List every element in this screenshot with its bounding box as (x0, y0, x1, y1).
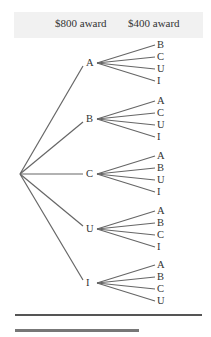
second-level-node: I (157, 75, 161, 86)
second-level-node: A (157, 150, 165, 161)
second-level-node: B (157, 39, 164, 50)
second-level-node: U (157, 295, 165, 306)
first-level-node: A (86, 57, 94, 68)
second-level-node: B (157, 271, 164, 282)
tree-branch (20, 122, 83, 174)
tree-branch (20, 174, 83, 226)
first-level-node: I (86, 277, 90, 288)
second-level-node: C (157, 229, 164, 240)
second-level-node: U (157, 63, 165, 74)
second-level-node: I (157, 241, 161, 252)
second-level-node: I (157, 131, 161, 142)
second-level-node: B (157, 217, 164, 228)
tree-branch (20, 66, 83, 174)
second-level-node: C (157, 107, 164, 118)
second-level-node: C (157, 51, 164, 62)
first-level-node: U (86, 223, 94, 234)
first-level-node: B (86, 113, 93, 124)
first-level-node: C (86, 168, 93, 179)
second-level-node: I (157, 186, 161, 197)
second-level-node: A (157, 205, 165, 216)
tree-diagram (0, 0, 211, 337)
second-level-node: A (157, 259, 165, 270)
second-level-node: U (157, 119, 165, 130)
bottom-rule (15, 314, 202, 316)
second-level-node: C (157, 283, 164, 294)
second-level-node: A (157, 95, 165, 106)
bottom-bar (15, 329, 139, 332)
second-level-node: B (157, 162, 164, 173)
second-level-node: U (157, 174, 165, 185)
tree-branch (20, 174, 83, 280)
